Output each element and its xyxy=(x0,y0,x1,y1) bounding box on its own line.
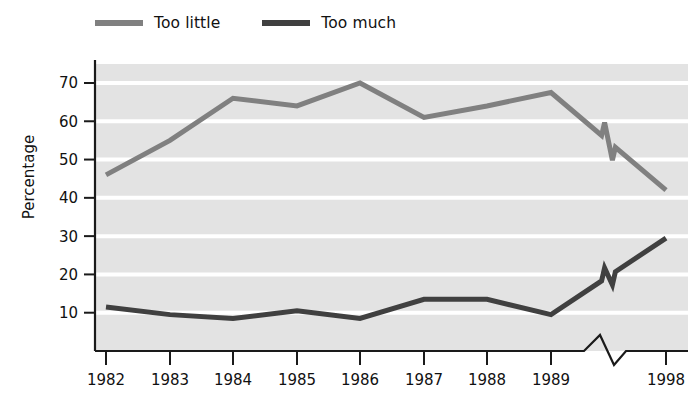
x-tick-label: 1982 xyxy=(87,371,125,389)
x-tick-label: 1986 xyxy=(341,371,379,389)
x-tick-label: 1988 xyxy=(468,371,506,389)
x-tick-label: 1987 xyxy=(405,371,443,389)
y-tick-label: 30 xyxy=(59,228,78,246)
x-tick-label: 1989 xyxy=(532,371,570,389)
y-tick-label: 60 xyxy=(59,113,78,131)
x-tick-label: 1998 xyxy=(647,371,685,389)
y-tick-label: 70 xyxy=(59,74,78,92)
x-axis-ticks: 198219831984198519861987198819891998 xyxy=(87,352,685,389)
chart-plot: 10203040506070 1982198319841985198619871… xyxy=(0,0,695,409)
y-tick-label: 20 xyxy=(59,266,78,284)
y-tick-label: 40 xyxy=(59,189,78,207)
chart-container: Too little Too much Percentage 102030405… xyxy=(0,0,695,409)
x-tick-label: 1985 xyxy=(278,371,316,389)
y-tick-label: 50 xyxy=(59,151,78,169)
x-tick-label: 1983 xyxy=(151,371,189,389)
x-tick-label: 1984 xyxy=(214,371,252,389)
y-tick-label: 10 xyxy=(59,304,78,322)
y-axis-ticks: 10203040506070 xyxy=(59,74,95,322)
